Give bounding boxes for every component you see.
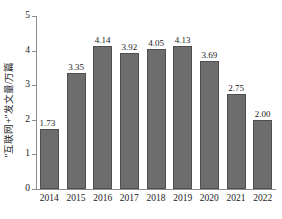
bar-value-label: 3.69 bbox=[201, 51, 217, 60]
x-tick-label: 2016 bbox=[93, 194, 112, 204]
y-tick-label: 5 bbox=[25, 11, 30, 21]
y-axis-title: "互联网+"发文量/万篇 bbox=[0, 0, 16, 219]
bar-chart: "互联网+"发文量/万篇 012345 20142015201620172018… bbox=[0, 0, 282, 219]
bar[interactable] bbox=[147, 49, 166, 189]
bar-value-label: 3.92 bbox=[121, 43, 137, 52]
bar[interactable] bbox=[67, 73, 86, 189]
plot-area: 012345 201420152016201720182019202020212… bbox=[36, 16, 276, 189]
x-tick-label: 2019 bbox=[173, 194, 192, 204]
bar-value-label: 2.00 bbox=[255, 110, 271, 119]
bar-value-label: 2.75 bbox=[228, 84, 244, 93]
bar[interactable] bbox=[120, 53, 139, 189]
bar[interactable] bbox=[253, 120, 272, 189]
y-tick-label: 0 bbox=[25, 184, 30, 194]
bar-value-label: 1.73 bbox=[39, 119, 55, 128]
x-tick-label: 2015 bbox=[67, 194, 86, 204]
y-tick-label: 3 bbox=[25, 80, 30, 90]
bars-layer: 1.733.354.143.924.054.133.692.752.00 bbox=[36, 16, 276, 189]
y-tick-mark bbox=[32, 189, 36, 190]
bar[interactable] bbox=[40, 129, 59, 189]
bar[interactable] bbox=[227, 94, 246, 189]
x-tick-label: 2022 bbox=[253, 194, 272, 204]
bar[interactable] bbox=[93, 46, 112, 189]
y-tick-label: 1 bbox=[25, 150, 30, 160]
x-axis-line bbox=[36, 189, 276, 190]
bar-value-label: 4.14 bbox=[95, 36, 111, 45]
y-tick-label: 2 bbox=[25, 115, 30, 125]
x-tick-label: 2014 bbox=[40, 194, 59, 204]
x-tick-label: 2021 bbox=[227, 194, 246, 204]
bar-value-label: 4.05 bbox=[148, 39, 164, 48]
x-tick-label: 2017 bbox=[120, 194, 139, 204]
x-tick-label: 2020 bbox=[200, 194, 219, 204]
bar-value-label: 4.13 bbox=[175, 36, 191, 45]
bar[interactable] bbox=[173, 46, 192, 189]
y-tick-label: 4 bbox=[25, 46, 30, 56]
bar[interactable] bbox=[200, 61, 219, 189]
bar-value-label: 3.35 bbox=[68, 63, 84, 72]
x-tick-label: 2018 bbox=[147, 194, 166, 204]
